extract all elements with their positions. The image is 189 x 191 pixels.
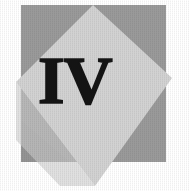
chapter-roman-numeral: IV xyxy=(38,46,102,114)
numeral-layer: IV xyxy=(0,0,189,191)
chapter-numeral-figure: IV xyxy=(0,0,189,191)
